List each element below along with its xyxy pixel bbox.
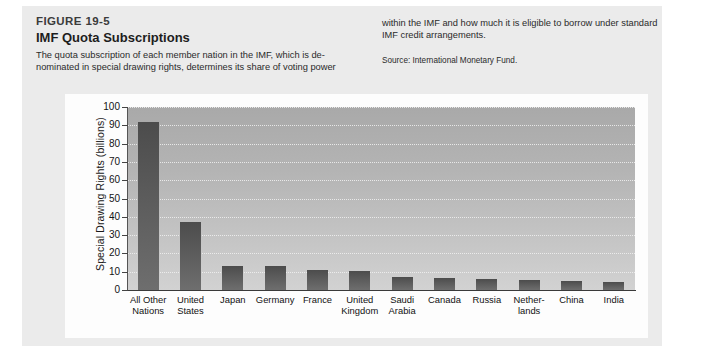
y-tick-label: 70 (90, 156, 120, 167)
y-tick-label: 60 (90, 174, 120, 185)
x-tick-label-line: United (339, 294, 381, 305)
y-tick-label: 0 (90, 284, 120, 295)
x-tick-label-line: lands (508, 305, 550, 316)
x-axis-labels: All OtherNationsUnitedStatesJapanGermany… (127, 294, 635, 316)
x-tick-label: All OtherNations (127, 294, 169, 316)
bar-slot (381, 107, 423, 290)
bar-series (127, 107, 635, 290)
x-tick-label: Canada (423, 294, 465, 316)
figure-header-right: within the IMF and how much it is eligib… (382, 17, 667, 66)
x-tick-label: India (593, 294, 635, 316)
x-tick-label-line: Germany (254, 294, 296, 305)
bar-slot (423, 107, 465, 290)
x-tick-label-line: France (296, 294, 338, 305)
y-tick-label: 50 (90, 193, 120, 204)
y-tick-mark (122, 290, 128, 291)
y-tick-label: 20 (90, 247, 120, 258)
bar[interactable] (265, 266, 286, 290)
bar[interactable] (561, 281, 582, 290)
x-tick-label-line: Saudi (381, 294, 423, 305)
x-tick-label-line: United (169, 294, 211, 305)
x-tick-label: Russia (466, 294, 508, 316)
figure-number: FIGURE 19-5 (36, 14, 366, 28)
y-tick-label: 100 (90, 101, 120, 112)
x-tick-label-line: Kingdom (339, 305, 381, 316)
x-tick-label-line: Nations (127, 305, 169, 316)
x-tick-label-line: India (593, 294, 635, 305)
bar-slot (254, 107, 296, 290)
x-tick-label: Japan (212, 294, 254, 316)
figure-caption-left: The quota subscription of each member na… (36, 49, 358, 74)
x-axis-line (127, 290, 636, 291)
x-tick-label-line: Nether- (508, 294, 550, 305)
x-tick-label: SaudiArabia (381, 294, 423, 316)
bar[interactable] (307, 270, 328, 290)
bar-slot (593, 107, 635, 290)
x-tick-label: UnitedKingdom (339, 294, 381, 316)
x-tick-label: France (296, 294, 338, 316)
bar[interactable] (349, 271, 370, 290)
bar-slot (296, 107, 338, 290)
bar-slot (127, 107, 169, 290)
bar-slot (550, 107, 592, 290)
y-tick-label: 40 (90, 211, 120, 222)
x-tick-label-line: Canada (423, 294, 465, 305)
bar-slot (508, 107, 550, 290)
figure-source: Source: International Monetary Fund. (382, 55, 667, 66)
y-tick-label: 30 (90, 229, 120, 240)
bar-slot (212, 107, 254, 290)
bar-slot (339, 107, 381, 290)
bar-slot (466, 107, 508, 290)
bar[interactable] (180, 222, 201, 290)
x-tick-label: Germany (254, 294, 296, 316)
y-tick-label: 90 (90, 119, 120, 130)
bar-chart: Special Drawing Rights (billions) 100908… (65, 94, 648, 338)
figure-title: IMF Quota Subscriptions (36, 29, 366, 46)
x-tick-label-line: States (169, 305, 211, 316)
x-tick-label-line: China (550, 294, 592, 305)
bar[interactable] (603, 282, 624, 290)
x-tick-label-line: Japan (212, 294, 254, 305)
bar[interactable] (519, 280, 540, 290)
bar[interactable] (392, 277, 413, 290)
bar[interactable] (476, 279, 497, 290)
figure-caption-right: within the IMF and how much it is eligib… (382, 17, 664, 42)
figure-root: FIGURE 19-5 IMF Quota Subscriptions The … (0, 0, 708, 361)
bar[interactable] (434, 278, 455, 290)
x-tick-label-line: Russia (466, 294, 508, 305)
chart-card: Special Drawing Rights (billions) 100908… (65, 94, 648, 338)
y-tick-label: 80 (90, 138, 120, 149)
bar[interactable] (138, 122, 159, 290)
bar-slot (169, 107, 211, 290)
x-tick-label: Nether-lands (508, 294, 550, 316)
x-tick-label: China (550, 294, 592, 316)
figure-header: FIGURE 19-5 IMF Quota Subscriptions The … (36, 14, 366, 74)
x-tick-label-line: Arabia (381, 305, 423, 316)
y-tick-label: 10 (90, 266, 120, 277)
bar[interactable] (222, 266, 243, 290)
x-tick-label: UnitedStates (169, 294, 211, 316)
x-tick-label-line: All Other (127, 294, 169, 305)
